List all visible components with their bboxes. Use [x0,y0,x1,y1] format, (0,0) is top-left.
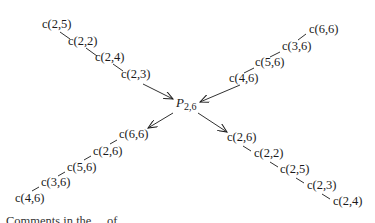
node-bottom-right-5: c(2,4) [333,195,363,208]
node-bottom-right-2: c(2,2) [254,147,284,160]
node-bottom-left-5: c(4,6) [15,192,45,205]
node-bottom-left-4: c(3,6) [41,176,71,189]
center-node-subscript: 2,6 [184,101,197,112]
node-top-left-3: c(2,4) [95,51,125,64]
node-bottom-right-4: c(2,3) [307,179,337,192]
node-top-right-3: c(5,6) [255,56,285,69]
node-bottom-right-3: c(2,5) [280,163,310,176]
center-node-symbol: P [176,95,184,110]
figure-caption: Comments in the ... of ... [6,214,130,223]
node-top-right-4: c(4,6) [229,72,259,85]
node-bottom-left-2: c(2,6) [93,145,123,158]
node-top-left-2: c(2,2) [68,35,98,48]
center-node-p26: P2,6 [176,96,196,113]
node-top-left-1: c(2,5) [42,18,72,31]
node-bottom-left-1: c(6,6) [119,128,149,141]
node-bottom-right-1: c(2,6) [227,131,257,144]
node-top-right-1: c(6,6) [309,23,339,36]
node-top-left-4: c(2,3) [121,68,151,81]
diagram-canvas: P2,6 c(2,5) c(2,2) c(2,4) c(2,3) c(6,6) … [0,0,375,223]
node-bottom-left-3: c(5,6) [67,161,97,174]
node-top-right-2: c(3,6) [282,40,312,53]
